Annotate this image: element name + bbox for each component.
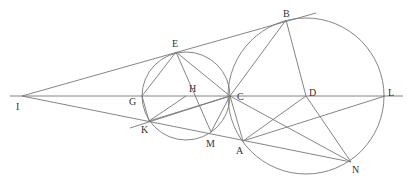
segment-AL xyxy=(243,96,385,141)
segment-BD xyxy=(286,20,306,96)
segment-CN xyxy=(230,96,351,162)
label-C: C xyxy=(237,91,244,102)
label-L: L xyxy=(388,87,394,98)
segment-EC xyxy=(176,52,230,96)
label-I: I xyxy=(16,101,19,112)
segment-GK xyxy=(142,96,149,121)
label-N: N xyxy=(352,164,359,175)
label-E: E xyxy=(172,38,178,49)
label-B: B xyxy=(283,8,290,19)
geometry-diagram: I E B G H C D L K M A N xyxy=(0,0,407,184)
segment-EG xyxy=(142,52,176,96)
label-K: K xyxy=(141,124,149,135)
label-D: D xyxy=(309,87,316,98)
segment-AD xyxy=(243,96,306,141)
label-H: H xyxy=(189,83,196,94)
segment-KH xyxy=(149,96,186,121)
segment-CB xyxy=(230,20,286,96)
segment-DN xyxy=(306,96,351,162)
tangent-line-IEB xyxy=(22,13,316,96)
line-IKMAN xyxy=(22,96,351,162)
label-M: M xyxy=(206,138,215,149)
segment-CA xyxy=(230,96,243,141)
label-A: A xyxy=(236,145,244,156)
label-G: G xyxy=(129,96,136,107)
